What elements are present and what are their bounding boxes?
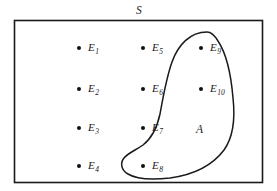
outcome-label-e9: E9: [210, 42, 221, 53]
diagram-canvas: [0, 0, 277, 191]
universe-rectangle-S: [15, 21, 263, 183]
outcome-label-e3: E3: [88, 122, 99, 133]
outcome-label-e2: E2: [88, 83, 99, 94]
event-label-A: A: [196, 124, 203, 136]
outcome-label-e4: E4: [88, 160, 99, 171]
outcome-label-e8: E8: [152, 160, 163, 171]
outcome-label-e7: E7: [152, 122, 163, 133]
outcome-label-e5: E5: [152, 42, 163, 53]
universe-label-S: S: [136, 5, 142, 17]
outcome-label-e6: E6: [152, 83, 163, 94]
sample-space-figure: S A E1E2E3E4E5E6E7E8E9E10: [0, 0, 277, 191]
outcome-label-e1: E1: [88, 42, 99, 53]
outcome-label-e10: E10: [210, 83, 224, 94]
